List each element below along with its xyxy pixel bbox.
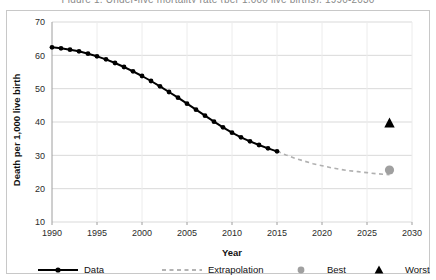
- scenario-points: [384, 117, 394, 174]
- data-point-marker: [59, 46, 64, 51]
- legend-marker-worst: [375, 265, 384, 273]
- data-point-marker: [212, 119, 217, 124]
- y-tick-label: 70: [35, 17, 45, 27]
- y-tick-label: 60: [35, 51, 45, 61]
- data-point-marker: [122, 65, 127, 70]
- data-point-marker: [95, 54, 100, 59]
- y-tick-label: 50: [35, 84, 45, 94]
- chart-svg: 10203040506070 1990199520002005201020152…: [0, 0, 436, 280]
- data-point-marker: [248, 139, 253, 144]
- x-tick-label: 2025: [357, 228, 377, 238]
- y-axis-title: Death per 1,000 live birth: [11, 74, 22, 187]
- x-tick-label: 2010: [222, 228, 242, 238]
- legend-marker-best: [298, 267, 305, 274]
- data-point-marker: [149, 79, 154, 84]
- best-scenario-marker: [385, 165, 394, 174]
- x-tick-label: 2005: [177, 228, 197, 238]
- x-tick-label: 2020: [312, 228, 332, 238]
- y-tick-label: 40: [35, 117, 45, 127]
- data-point-marker: [239, 135, 244, 140]
- data-point-marker: [158, 84, 163, 89]
- series-data: [50, 45, 280, 154]
- x-axis-title: Year: [222, 247, 242, 258]
- data-point-marker: [104, 57, 109, 62]
- x-axis-tick-labels: 199019952000200520102015202020252030: [42, 228, 422, 238]
- legend-label-worst: Worst: [405, 264, 430, 275]
- data-point-marker: [230, 130, 235, 135]
- data-line: [52, 47, 277, 151]
- data-point-marker: [203, 113, 208, 118]
- data-point-marker: [185, 101, 190, 106]
- legend-group: DataExtrapolationBestWorst: [38, 264, 430, 275]
- series-extrapolation: [277, 151, 390, 174]
- data-point-marker: [113, 61, 118, 66]
- data-point-marker: [50, 45, 55, 50]
- x-tick-label: 2015: [267, 228, 287, 238]
- data-point-marker: [257, 143, 262, 148]
- legend-label-best: Best: [327, 264, 346, 275]
- data-point-marker: [131, 69, 136, 74]
- y-tick-label: 30: [35, 151, 45, 161]
- x-tick-label: 2000: [132, 228, 152, 238]
- y-axis-tick-labels: 10203040506070: [35, 17, 45, 227]
- x-tick-label: 1990: [42, 228, 62, 238]
- data-point-marker: [266, 146, 271, 151]
- data-point-marker: [176, 95, 181, 100]
- data-point-marker: [140, 74, 145, 79]
- data-point-marker: [194, 107, 199, 112]
- y-tick-label: 20: [35, 184, 45, 194]
- data-point-marker: [77, 49, 82, 54]
- x-tick-label: 2030: [402, 228, 422, 238]
- legend-label-data: Data: [84, 264, 105, 275]
- figure-container: Figure 1. Under-five mortality rate (per…: [0, 0, 436, 280]
- data-point-marker: [86, 51, 91, 56]
- data-point-marker: [275, 149, 280, 154]
- gridlines-group: [52, 22, 412, 222]
- extrapolation-line: [277, 151, 390, 174]
- x-tick-label: 1995: [87, 228, 107, 238]
- data-point-marker: [68, 47, 73, 52]
- legend-marker-data: [55, 267, 60, 272]
- legend-label-extrapolation: Extrapolation: [208, 264, 263, 275]
- data-point-marker: [221, 125, 226, 130]
- data-point-marker: [167, 90, 172, 95]
- y-tick-label: 10: [35, 217, 45, 227]
